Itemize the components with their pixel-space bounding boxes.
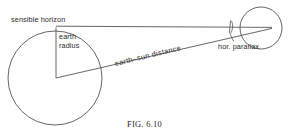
sensible-horizon-line [56, 26, 272, 27]
figure-caption: FIG. 6.10 [0, 120, 289, 129]
parallax-angle-arc [229, 21, 230, 33]
earth-circle [8, 31, 102, 125]
label-hor-parallax: hor. parallax [218, 43, 259, 52]
label-earth-radius-line2: radius [59, 42, 79, 51]
label-sensible-horizon: sensible horizon [11, 16, 65, 25]
label-earth-radius: earth radius [59, 33, 79, 50]
figure-caption-text: FIG. 6.10 [127, 120, 162, 129]
figure-container: sensible horizon earth radius earth–sun … [0, 0, 289, 140]
